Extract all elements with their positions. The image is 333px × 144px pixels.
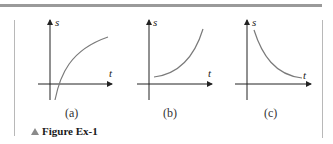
- panel-a-x-label: t: [109, 67, 112, 79]
- panel-a-label: (a): [65, 106, 78, 121]
- panel-b-y-label: s: [153, 16, 157, 28]
- panel-a-y-label: s: [55, 16, 59, 28]
- figure-caption-text: Figure Ex-1: [42, 125, 98, 137]
- panel-b-x-label: t: [208, 67, 211, 79]
- panel-b-graph: [137, 20, 212, 100]
- figure-caption: Figure Ex-1: [31, 125, 98, 137]
- panel-b-curve: [154, 29, 203, 77]
- panel-c-curve: [254, 30, 302, 78]
- panel-b-label: (b): [163, 106, 177, 121]
- panel-c-graph: [235, 20, 311, 100]
- panel-a-graph: [38, 20, 112, 100]
- panel-c-x-label: t: [303, 69, 306, 81]
- panel-a-curve: [55, 37, 108, 100]
- panel-c-label: (c): [264, 106, 277, 121]
- panel-c-y-label: s: [252, 16, 256, 28]
- figure-graphs: [0, 0, 333, 144]
- triangle-up-icon: [31, 128, 39, 135]
